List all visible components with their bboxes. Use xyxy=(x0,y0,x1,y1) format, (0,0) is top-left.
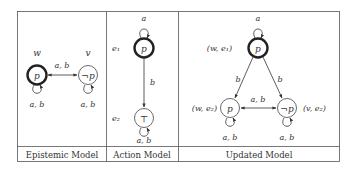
edge-label-we1-we2: b xyxy=(235,75,240,84)
loop-label-we2: a, b xyxy=(223,133,238,142)
loop-ve2 xyxy=(283,118,291,126)
node-e1-name: e₁ xyxy=(112,44,120,53)
node-v-name: v xyxy=(85,48,90,58)
loop-label-we1: a xyxy=(256,14,261,23)
loop-v xyxy=(84,85,92,93)
loop-label-e1: a xyxy=(142,14,147,23)
loop-w xyxy=(33,85,41,93)
edge-label-e1-e2: b xyxy=(150,78,155,87)
caption-epistemic-model: Epistemic Model xyxy=(26,150,99,160)
edge-label-we1-ve2: b xyxy=(277,75,282,84)
node-e1-label: p xyxy=(141,44,147,54)
loop-e2 xyxy=(140,128,148,136)
loop-we1 xyxy=(254,29,262,38)
loop-label-v: a, b xyxy=(81,100,96,109)
epistemic-model-panel: a, b p w a, b ¬p v a, b Epistemic Model xyxy=(26,48,99,160)
node-ve2-name: (v, e₂) xyxy=(303,104,326,113)
action-model-panel: a p e₁ b ⊤ e₂ a, b Action Model xyxy=(112,14,171,160)
node-we2-label: p xyxy=(227,104,233,114)
node-we1-label: p xyxy=(255,44,261,54)
updated-model-panel: a p (w, e₁) b b a, b p (w, e₂) a, b ¬p (… xyxy=(192,14,326,160)
node-w-name: w xyxy=(33,48,41,58)
node-w-label: p xyxy=(34,71,40,81)
node-we1-name: (w, e₁) xyxy=(207,44,232,53)
loop-label-ve2: a, b xyxy=(280,133,295,142)
caption-updated-model: Updated Model xyxy=(226,150,293,160)
loop-we2 xyxy=(226,118,234,126)
model-diagram: a, b p w a, b ¬p v a, b Epistemic Model … xyxy=(0,0,355,172)
loop-label-e2: a, b xyxy=(137,136,152,145)
node-e2-name: e₂ xyxy=(112,114,120,123)
loop-e1 xyxy=(140,29,148,38)
node-ve2-label: ¬p xyxy=(280,104,294,114)
caption-action-model: Action Model xyxy=(112,150,171,160)
edge-label-we2-ve2: a, b xyxy=(251,95,266,104)
node-we2-name: (w, e₂) xyxy=(192,104,217,113)
node-e2-label: ⊤ xyxy=(140,114,148,124)
loop-label-w: a, b xyxy=(30,100,45,109)
edge-label-w-v: a, b xyxy=(55,61,70,70)
node-v-label: ¬p xyxy=(81,71,95,81)
